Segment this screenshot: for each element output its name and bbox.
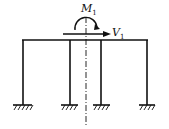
fixed-support-hatching (14, 105, 155, 110)
moment-label: M1 (81, 3, 97, 17)
shear-label: V1 (112, 27, 124, 41)
frame-diagram (0, 0, 169, 129)
